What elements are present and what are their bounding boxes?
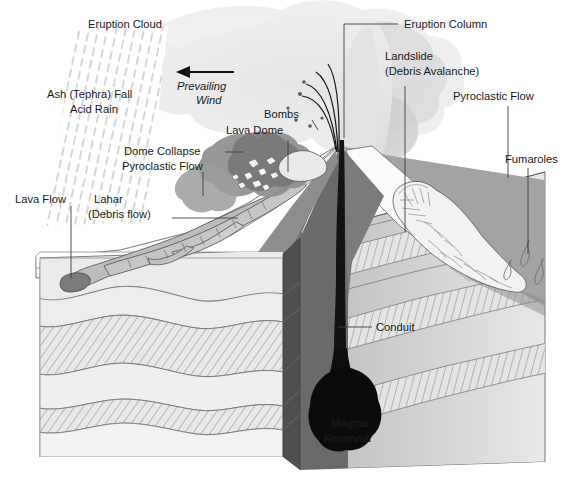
volcano-hazards-diagram: Eruption Cloud Ash (Tephra) Fall Acid Ra… xyxy=(0,0,575,488)
label-lava-dome: Lava Dome xyxy=(226,124,283,136)
bomb-4 xyxy=(308,124,312,128)
label-prevailing-wind: Prevailing xyxy=(177,80,227,92)
label-debris-flow: (Debris flow) xyxy=(88,208,151,220)
bomb-5 xyxy=(320,116,323,119)
label-ash-tephra-fall: Ash (Tephra) Fall xyxy=(47,88,132,100)
label-lava-flow: Lava Flow xyxy=(15,193,67,205)
label-pyroclastic-flow-left: Pyroclastic Flow xyxy=(122,160,204,172)
label-conduit: Conduit xyxy=(376,321,415,333)
left-block-side-face xyxy=(283,238,300,470)
label-wind: Wind xyxy=(196,94,222,106)
label-fumaroles: Fumaroles xyxy=(505,153,558,165)
label-pyroclastic-flow-right: Pyroclastic Flow xyxy=(453,90,535,102)
label-magma-top: Magma xyxy=(331,417,369,429)
label-eruption-column: Eruption Column xyxy=(404,18,487,30)
label-lahar: Lahar xyxy=(94,193,123,205)
label-reservoir-top: Reservoir xyxy=(324,432,372,444)
label-landslide: Landslide xyxy=(385,50,433,62)
label-bombs: Bombs xyxy=(264,108,299,120)
label-dome-collapse: Dome Collapse xyxy=(124,145,200,157)
bomb-2 xyxy=(302,80,306,84)
label-debris-avalanche: (Debris Avalanche) xyxy=(385,65,480,77)
diagram-canvas: Eruption Cloud Ash (Tephra) Fall Acid Ra… xyxy=(0,0,575,488)
label-eruption-cloud: Eruption Cloud xyxy=(88,18,162,30)
left-strata-hatched-1 xyxy=(38,315,284,377)
label-acid-rain: Acid Rain xyxy=(70,103,118,115)
bomb-1 xyxy=(298,92,302,96)
